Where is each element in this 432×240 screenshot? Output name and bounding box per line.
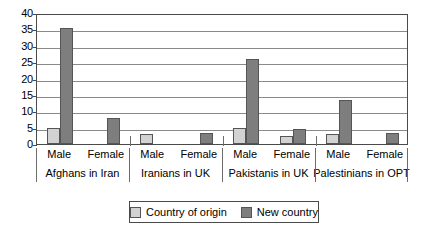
- legend-item-newc: New country: [241, 207, 318, 218]
- bar-palestinians-in-opt-male-origin: [326, 134, 339, 144]
- bar-pakistanis-in-uk-female-newc: [293, 129, 306, 144]
- bar-afghans-in-iran-female-newc: [107, 118, 120, 144]
- x-group-label-palestinians-in-opt: Palestinians in OPT: [312, 167, 412, 180]
- x-label-edge-right: [407, 148, 408, 182]
- legend-label-origin: Country of origin: [146, 207, 227, 218]
- x-group-label-pakistanis-in-uk: Pakistanis in UK: [219, 167, 319, 180]
- x-label-separator-3: [315, 148, 316, 182]
- legend-item-origin: Country of origin: [130, 207, 227, 218]
- bar-pakistanis-in-uk-male-origin: [233, 128, 246, 144]
- x-group-label-iranians-in-uk: Iranians in UK: [126, 167, 226, 180]
- x-label-separator-1: [129, 148, 130, 182]
- x-axis-labels: MaleFemaleAfghans in IranMaleFemaleIrani…: [36, 148, 408, 190]
- legend-swatch-newc: [241, 207, 252, 218]
- x-label-separator-2: [222, 148, 223, 182]
- bar-afghans-in-iran-male-origin: [47, 128, 60, 144]
- y-tick-mark-0: [33, 145, 37, 146]
- x-label-edge-left: [36, 148, 37, 182]
- bar-palestinians-in-opt-male-newc: [339, 100, 352, 144]
- bar-iranians-in-uk-female-newc: [200, 133, 213, 144]
- bar-chart: 4035302520151050 MaleFemaleAfghans in Ir…: [0, 0, 432, 240]
- legend-label-newc: New country: [257, 207, 318, 218]
- bars-layer: [37, 15, 407, 144]
- bar-afghans-in-iran-male-newc: [60, 28, 73, 144]
- plot-area: [36, 14, 408, 145]
- legend-swatch-origin: [130, 207, 141, 218]
- x-sublabel-palestinians-in-opt-female: Female: [355, 148, 415, 161]
- bar-palestinians-in-opt-female-newc: [386, 133, 399, 144]
- bar-iranians-in-uk-male-origin: [140, 134, 153, 144]
- bar-pakistanis-in-uk-female-origin: [280, 136, 293, 144]
- x-group-label-afghans-in-iran: Afghans in Iran: [33, 167, 133, 180]
- chart-legend: Country of originNew country: [129, 201, 319, 223]
- y-axis-ticks: [0, 14, 40, 145]
- bar-pakistanis-in-uk-male-newc: [246, 59, 259, 144]
